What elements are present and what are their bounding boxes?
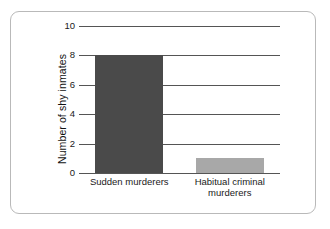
bar	[196, 158, 264, 173]
y-axis-title-label: Number of shy inmates	[56, 54, 68, 164]
bar-chart: Number of shy inmates 0246810 Sudden mur…	[11, 12, 317, 215]
gridline	[79, 173, 280, 174]
y-axis-tick-label: 0	[70, 168, 75, 178]
y-axis-tick-label: 8	[70, 51, 75, 61]
y-axis-tick-label: 4	[70, 109, 75, 119]
y-axis-tick-label: 10	[64, 21, 75, 31]
y-axis-tick-label: 6	[70, 80, 75, 90]
y-axis-title: Number of shy inmates	[55, 34, 69, 184]
figure-frame: Number of shy inmates 0246810 Sudden mur…	[10, 11, 316, 214]
bar	[95, 55, 163, 173]
x-axis-tick-label: Sudden murderers	[76, 177, 182, 188]
gridline	[79, 26, 280, 27]
plot-area: 0246810 Sudden murderersHabitual crimina…	[79, 26, 280, 173]
x-axis-tick-label: Habitual criminal murderers	[177, 177, 283, 199]
y-axis-tick-label: 2	[70, 139, 75, 149]
